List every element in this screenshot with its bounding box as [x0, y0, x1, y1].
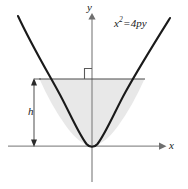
height-label: h	[28, 106, 34, 117]
equation-operator: =	[123, 17, 131, 29]
equation-label: x2=4py	[114, 18, 147, 29]
x-axis-label: x	[169, 140, 174, 151]
right-angle-marker-icon	[85, 69, 93, 80]
equation-right-side: 4py	[131, 17, 147, 29]
x-axis-arrow-icon	[159, 143, 167, 150]
parabola-figure: y x h x2=4py	[0, 0, 188, 189]
figure-canvas	[0, 0, 188, 189]
y-axis-arrow-icon	[88, 13, 95, 20]
y-axis-label: y	[87, 2, 92, 13]
